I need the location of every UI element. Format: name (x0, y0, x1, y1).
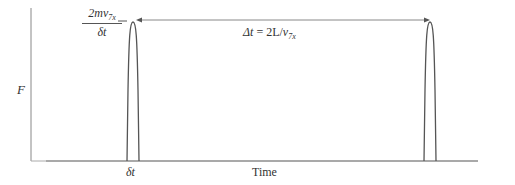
first-pulse (127, 22, 139, 161)
second-pulse (424, 22, 436, 161)
peak-force-label: 2mv7x δt (82, 6, 122, 40)
peak-force-numerator: 2mv7x (82, 6, 122, 24)
interval-label: Δt = 2L/v7x (243, 25, 296, 41)
arrow-head-left-icon (136, 18, 142, 23)
y-axis-label: F (17, 82, 25, 98)
peak-force-denominator: δt (82, 24, 122, 40)
pulse-width-label: δt (126, 165, 135, 180)
x-axis-label: Time (252, 165, 277, 180)
